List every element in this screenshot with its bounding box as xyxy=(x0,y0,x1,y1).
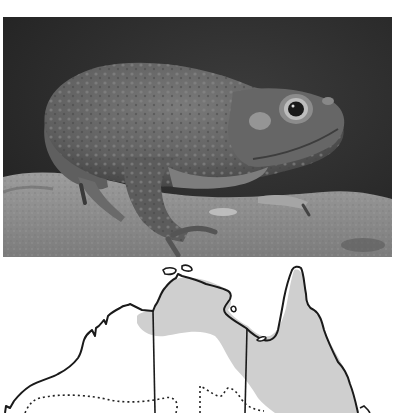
island-melville xyxy=(163,268,176,275)
toad-photo-illustration xyxy=(3,17,392,257)
island-groote xyxy=(231,306,236,311)
australia-range-map xyxy=(0,258,399,413)
distribution-map xyxy=(0,258,399,413)
toad-photograph xyxy=(3,17,392,257)
range-shaded-area xyxy=(137,270,358,413)
east-coast-outlet xyxy=(360,406,370,413)
island-bathurst xyxy=(182,265,192,271)
eye-pupil xyxy=(288,102,304,117)
